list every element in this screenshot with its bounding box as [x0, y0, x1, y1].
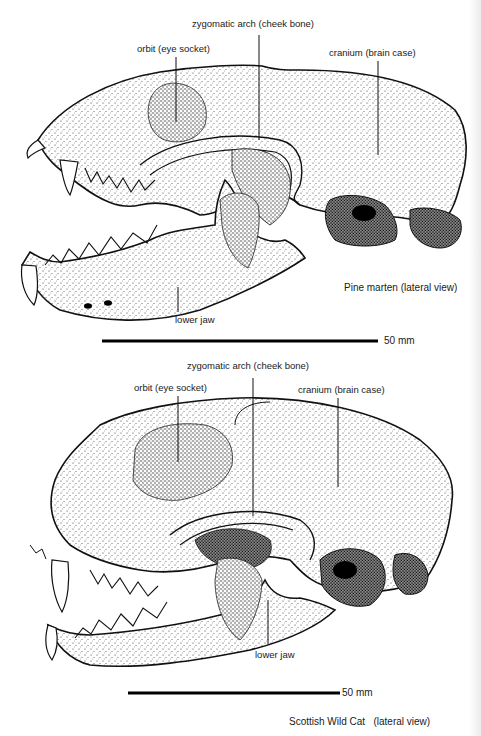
pine-marten-skull: [22, 35, 467, 320]
pm-cranium-label: cranium (brain case): [329, 47, 416, 58]
page-edge-shadow: [469, 0, 481, 736]
wc-cranium-label: cranium (brain case): [298, 384, 385, 395]
wild-cat-skull: [30, 378, 453, 666]
wc-zygomatic-label: zygomatic arch (cheek bone): [187, 360, 309, 371]
pm-zygomatic-label: zygomatic arch (cheek bone): [192, 18, 314, 29]
pm-scale-label: 50 mm: [384, 335, 415, 347]
pm-caption: Pine marten (lateral view): [344, 282, 457, 294]
wc-lower-jaw-label: lower jaw: [255, 649, 295, 660]
pm-lower-jaw-label: lower jaw: [175, 314, 215, 325]
pm-orbit-label: orbit (eye socket): [137, 43, 210, 54]
wc-scale-label: 50 mm: [342, 687, 373, 699]
wc-orbit-label: orbit (eye socket): [134, 382, 207, 393]
wc-caption: Scottish Wild Cat (lateral view): [289, 716, 430, 728]
